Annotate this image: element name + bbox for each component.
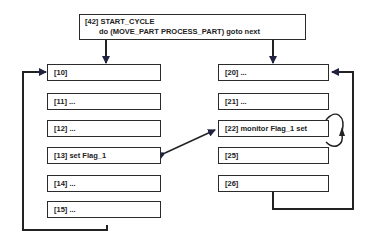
arrow-13-22-bidirectional: [165, 130, 215, 153]
start-cycle-block: [42] START_CYCLE do (MOVE_PART PROCESS_P…: [79, 14, 306, 40]
block-21: [21] ...: [218, 93, 329, 110]
block-label: [15] ...: [54, 205, 76, 214]
block-15: [15] ...: [47, 201, 161, 218]
block-22: [22] monitor Flag_1 set: [218, 120, 329, 137]
block-label: [20] ...: [225, 68, 247, 77]
start-cycle-action: do (MOVE_PART PROCESS_PART) goto next: [85, 27, 260, 37]
start-cycle-label: [42] START_CYCLE: [85, 17, 154, 27]
block-label: [13] set Flag_1: [54, 151, 106, 160]
block-label: [21] ...: [225, 97, 247, 106]
block-10: [10]: [47, 64, 161, 81]
block-label: [14] ...: [54, 179, 76, 188]
block-label: [11] ...: [54, 97, 75, 106]
block-20: [20] ...: [218, 64, 329, 81]
block-14: [14] ...: [47, 175, 161, 192]
block-label: [25]: [225, 151, 238, 160]
block-12: [12] ...: [47, 120, 161, 137]
block-label: [26]: [225, 179, 238, 188]
block-26: [26]: [218, 175, 329, 192]
block-25: [25]: [218, 147, 329, 164]
block-label: [22] monitor Flag_1 set: [225, 124, 307, 133]
block-11: [11] ...: [47, 93, 161, 110]
self-loop-arrowhead: [339, 127, 345, 136]
block-label: [12] ...: [54, 124, 76, 133]
block-13: [13] set Flag_1: [47, 147, 161, 164]
block-label: [10]: [54, 68, 67, 77]
